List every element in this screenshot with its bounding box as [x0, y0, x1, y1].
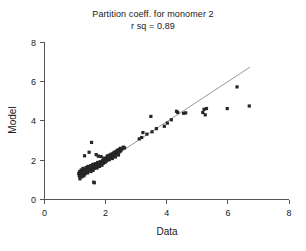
y-tick-label: 2: [31, 156, 36, 166]
data-point-marker: [226, 107, 229, 110]
data-point-marker: [123, 146, 126, 149]
data-point-marker: [90, 141, 93, 144]
data-point-marker: [114, 155, 117, 158]
x-tick-label: 8: [286, 208, 291, 218]
data-point-marker: [163, 125, 166, 128]
scatter-plot: 0 2 4 6 8 0 2 4 6 8 Data Model: [0, 0, 306, 251]
y-axis-ticks: [40, 42, 45, 200]
y-tick-label: 0: [31, 195, 36, 205]
y-axis-title: Model: [7, 106, 18, 133]
y-tick-label: 8: [31, 38, 36, 48]
data-point-marker: [140, 136, 143, 139]
data-point-marker: [117, 153, 120, 156]
data-point-marker: [166, 122, 169, 125]
data-point-marker: [150, 130, 153, 133]
data-point-marker: [83, 154, 86, 157]
data-point-marker: [93, 181, 96, 184]
x-tick-label: 0: [42, 208, 47, 218]
data-point-marker: [99, 155, 102, 158]
data-point-marker: [155, 127, 158, 130]
y-tick-label: 4: [31, 116, 36, 126]
x-tick-label: 2: [103, 208, 108, 218]
data-point-marker: [145, 133, 148, 136]
x-axis-tick-labels: 0 2 4 6 8: [42, 208, 292, 218]
data-point-marker: [88, 151, 91, 154]
data-point-marker: [176, 111, 179, 114]
data-point-marker: [204, 113, 207, 116]
x-axis-ticks: [45, 200, 290, 205]
data-point-marker: [205, 107, 208, 110]
y-tick-label: 6: [31, 77, 36, 87]
x-axis-title: Data: [156, 226, 178, 237]
data-point-marker: [141, 131, 144, 134]
data-point-marker: [248, 104, 251, 107]
x-tick-label: 4: [164, 208, 169, 218]
data-point-marker: [235, 85, 238, 88]
data-point-marker: [111, 157, 114, 160]
x-tick-label: 6: [225, 208, 230, 218]
data-point-marker: [97, 155, 100, 158]
data-point-marker: [149, 115, 152, 118]
chart-figure: Partition coeff. for monomer 2 r sq = 0.…: [0, 0, 306, 251]
data-points: [77, 85, 251, 184]
data-point-marker: [184, 111, 187, 114]
y-axis-tick-labels: 0 2 4 6 8: [31, 38, 36, 206]
data-point-marker: [170, 118, 173, 121]
